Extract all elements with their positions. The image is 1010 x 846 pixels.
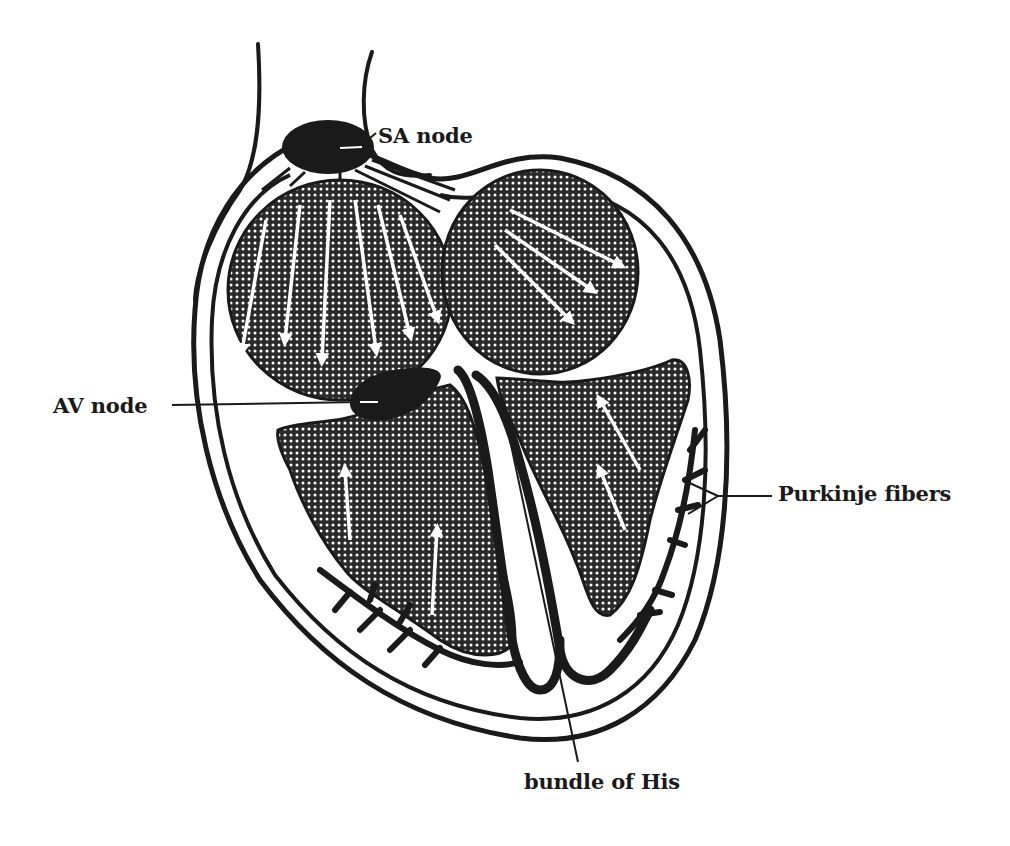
sa-node-label: SA node (378, 123, 473, 148)
left-atrium (442, 170, 638, 374)
av-node-label: AV node (53, 393, 147, 418)
heart-conduction-diagram (0, 0, 1010, 846)
bundle-of-his-label: bundle of His (524, 769, 680, 794)
right-atrium (228, 180, 452, 400)
purkinje-fibers-label: Purkinje fibers (778, 481, 951, 506)
